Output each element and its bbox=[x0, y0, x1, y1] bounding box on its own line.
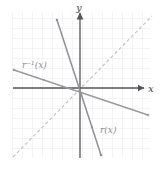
x-axis-label: x bbox=[148, 83, 154, 94]
curve-label-r: r(x) bbox=[100, 125, 117, 135]
y-axis-label: y bbox=[75, 2, 82, 13]
curve-label-r-inverse: r⁻¹(x) bbox=[22, 60, 47, 70]
grid-lines bbox=[12, 12, 150, 158]
coordinate-plane-svg: x y r⁻¹(x) r(x) bbox=[0, 0, 163, 169]
function-inverse-graph-figure: x y r⁻¹(x) r(x) bbox=[0, 0, 163, 169]
